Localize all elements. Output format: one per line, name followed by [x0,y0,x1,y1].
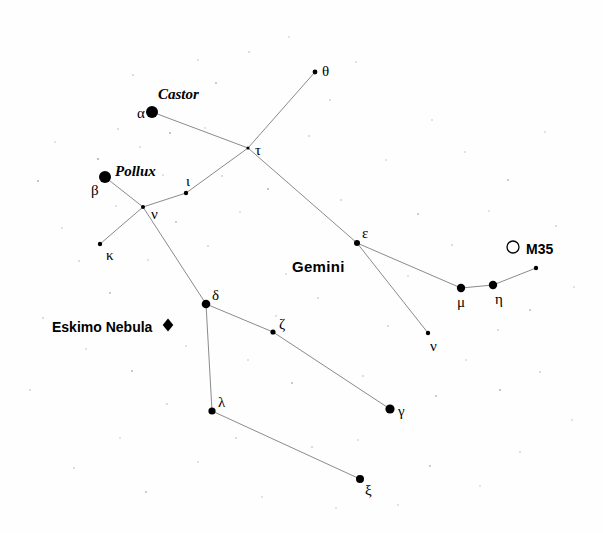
star-gamma [385,404,394,413]
star-label-epsilon: ε [362,225,368,242]
star-label-mu: μ [457,294,465,311]
star-label-iota: ι [186,173,190,190]
star-iota [184,191,188,195]
star-nu_low [426,331,430,335]
background-star [429,465,431,467]
background-star [335,507,336,508]
constellation-line [105,177,143,207]
constellation-line [461,285,493,288]
background-star [247,359,248,360]
background-star [54,141,55,142]
background-star [248,51,250,53]
background-star [529,309,531,311]
background-star [97,158,99,160]
constellation-line [100,207,143,244]
star-mu [457,284,465,292]
background-star [197,461,198,462]
constellation-line [186,148,248,193]
background-star [387,325,389,327]
star-label-xi: ξ [365,482,372,499]
background-star [169,132,171,134]
background-star [132,74,134,76]
star-nu_jct [141,205,145,209]
star-label-delta: δ [212,287,219,304]
background-star [385,159,386,160]
background-star [166,403,168,405]
star-label-eta: η [495,291,503,308]
star-beta [99,171,111,183]
background-star [451,244,453,246]
constellation-name-label: Gemini [292,258,345,275]
background-star [465,359,466,360]
constellation-line [143,193,186,207]
named-stars [98,70,538,483]
star-epsilon [354,240,360,246]
star-unlabeled_1 [534,266,538,270]
constellation-line [493,268,536,285]
background-star [275,315,276,316]
star-delta [202,300,211,309]
background-star [175,221,177,223]
background-star [308,135,310,137]
star-chart-gemini: αCastorβPolluxτθινκδζλγξεμηνM35Eskimo Ne… [0,0,603,533]
background-star [185,345,186,346]
background-star [573,286,574,287]
background-star [235,437,237,439]
background-star [29,389,31,391]
background-star [147,259,148,260]
background-star [78,260,80,262]
background-star [407,275,408,276]
background-star [571,419,572,420]
constellation-line [248,72,315,148]
constellation-line [248,148,357,243]
background-star [215,82,217,84]
background-star [285,273,286,274]
dso-label-m35: M35 [526,241,553,257]
background-star [435,395,437,397]
background-star [499,389,501,391]
background-star [197,59,198,60]
constellation-line [206,304,212,411]
star-label-kappa: κ [106,247,114,264]
background-star [507,179,509,181]
background-star [162,174,163,175]
background-star [221,175,223,177]
background-star [115,205,116,206]
constellation-lines [100,72,536,479]
star-zeta [270,329,275,334]
background-star [362,375,364,377]
star-proper-name-alpha: Castor [158,86,199,103]
constellation-line [152,112,248,148]
constellation-line [212,411,360,479]
star-proper-name-beta: Pollux [115,163,156,180]
background-star [431,119,432,120]
constellation-line [357,243,461,288]
background-star [479,485,480,486]
constellation-line [357,243,428,333]
background-star [397,504,398,505]
background-star [497,329,499,331]
star-theta [313,70,318,75]
star-kappa [98,242,102,246]
background-star [109,292,111,294]
background-star [267,188,269,190]
star-xi [356,475,364,483]
background-star [261,496,262,497]
dso-label-eskimo_nebula: Eskimo Nebula [52,319,152,335]
background-star [42,317,44,319]
background-star [145,491,147,493]
background-star [317,297,319,299]
background-star [519,451,521,453]
background-star [311,446,313,448]
star-label-nu_jct: ν [151,206,158,223]
background-star [204,127,205,128]
star-alpha [146,106,158,118]
background-star [464,151,465,152]
background-star [119,437,120,438]
background-star [488,210,489,211]
background-star [73,467,75,469]
background-star [291,382,293,384]
star-label-tau: τ [255,142,261,159]
background-star [207,245,209,247]
background-star [117,128,119,130]
